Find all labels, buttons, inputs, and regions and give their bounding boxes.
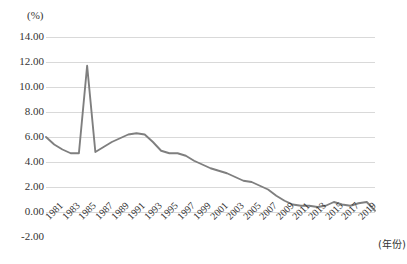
x-axis-tick-labels: 1981198319851987198919911993199519971999… (46, 212, 375, 264)
y-axis-tick-labels: 14.0012.0010.008.006.004.002.000.00-2.00 (0, 0, 44, 264)
y-tick-label: 0.00 (0, 206, 44, 217)
series-polyline (46, 66, 375, 211)
y-tick-label: 2.00 (0, 181, 44, 192)
y-tick-label: 6.00 (0, 131, 44, 142)
plot-area (46, 37, 375, 212)
y-tick-label: 4.00 (0, 156, 44, 167)
y-tick-label: -2.00 (0, 231, 44, 242)
y-tick-label: 8.00 (0, 106, 44, 117)
y-tick-label: 12.00 (0, 56, 44, 67)
y-tick-label: 10.00 (0, 81, 44, 92)
series-line-increase-rate (46, 37, 375, 212)
line-chart: (%) 14.0012.0010.008.006.004.002.000.00-… (0, 0, 407, 264)
x-axis-unit-label: (年份) (378, 236, 406, 251)
y-tick-label: 14.00 (0, 31, 44, 42)
